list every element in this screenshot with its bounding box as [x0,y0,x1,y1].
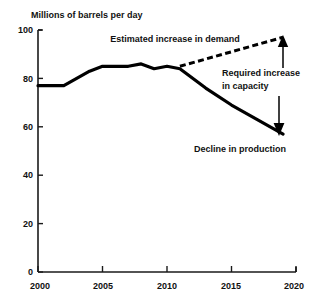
oil-production-demand-chart: Millions of barrels per day 100 80 60 40… [0,0,319,302]
x-tick-label-2000: 2000 [30,281,50,291]
chart-title: Millions of barrels per day [31,10,143,20]
y-tick-label-60: 60 [23,122,33,132]
x-axis-tick-labels: 2000 2005 2010 2015 2020 [30,281,304,291]
y-tick-label-20: 20 [23,219,33,229]
annotation-decline-in-production: Decline in production [194,96,286,154]
annotation-estimated-increase-in-demand: Estimated increase in demand [110,34,240,44]
y-axis-tick-labels: 100 80 60 40 20 0 [18,25,33,277]
y-tick-label-80: 80 [23,74,33,84]
x-axis-ticks [38,266,296,272]
annotation-required-increase-line-1: Required increase [222,68,300,78]
up-arrow-icon [278,35,288,68]
y-tick-label-0: 0 [28,267,33,277]
x-tick-label-2010: 2010 [157,281,177,291]
annotation-required-increase-line-2: in capacity [222,81,269,91]
x-tick-label-2005: 2005 [93,281,113,291]
y-tick-label-40: 40 [23,170,33,180]
y-tick-label-100: 100 [18,25,33,35]
annotation-decline-in-production-text: Decline in production [194,144,286,154]
x-tick-label-2015: 2015 [221,281,241,291]
chart-container: Millions of barrels per day 100 80 60 40… [0,0,319,302]
x-tick-label-2020: 2020 [284,281,304,291]
